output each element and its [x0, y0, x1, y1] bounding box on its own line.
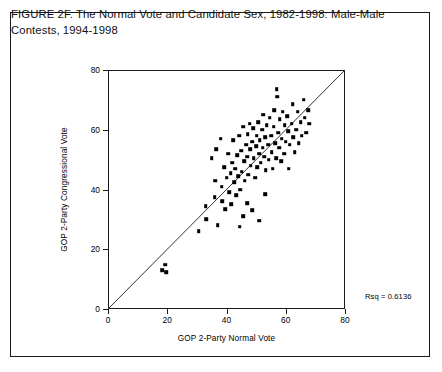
data-point	[235, 153, 239, 157]
data-point	[283, 123, 287, 127]
data-point	[295, 128, 299, 132]
x-tick	[227, 309, 228, 314]
data-point	[297, 141, 301, 145]
data-point	[197, 230, 201, 234]
y-tick	[103, 130, 108, 131]
data-point	[259, 161, 263, 165]
data-point	[263, 135, 267, 139]
data-point	[273, 141, 277, 145]
y-tick-label: 60	[70, 126, 100, 134]
x-tick-label: 60	[271, 316, 301, 324]
data-point	[221, 200, 225, 204]
data-point	[257, 219, 261, 223]
data-point	[274, 156, 278, 160]
data-point	[257, 120, 261, 124]
y-tick-label: 0	[70, 305, 100, 313]
data-point	[237, 134, 241, 138]
data-point	[231, 161, 235, 165]
data-point	[205, 218, 209, 222]
data-point	[284, 140, 288, 144]
data-point	[280, 137, 284, 141]
data-point	[164, 263, 168, 267]
data-point	[296, 110, 300, 114]
data-point	[278, 117, 282, 121]
data-point	[286, 129, 290, 133]
data-point	[215, 147, 219, 151]
y-tick-label: 20	[70, 245, 100, 253]
y-axis-title-text: GOP 2-Party Congressional Vote	[60, 127, 69, 252]
data-point	[241, 215, 245, 219]
data-point	[220, 185, 224, 189]
data-point	[222, 165, 226, 169]
data-point	[255, 165, 259, 169]
data-point	[270, 150, 274, 154]
data-point	[253, 176, 257, 180]
data-point	[276, 95, 280, 99]
data-point	[237, 174, 241, 178]
y-tick	[103, 70, 108, 71]
x-tick	[345, 309, 346, 314]
data-point	[288, 143, 292, 147]
data-point	[254, 144, 258, 148]
data-point	[213, 195, 217, 199]
x-tick	[108, 309, 109, 314]
data-point	[261, 146, 265, 150]
data-point	[293, 150, 297, 154]
data-point	[276, 131, 280, 135]
data-point	[210, 156, 214, 160]
data-point	[292, 135, 296, 139]
y-tick-label: 80	[70, 66, 100, 74]
data-point	[287, 167, 291, 171]
y-tick-label: 40	[70, 185, 100, 193]
data-point	[263, 155, 267, 159]
data-point	[266, 143, 270, 147]
data-point	[279, 159, 283, 163]
data-point	[232, 180, 236, 184]
data-point	[234, 194, 238, 198]
data-point	[257, 152, 261, 156]
data-point	[285, 114, 289, 118]
data-point	[243, 179, 247, 183]
x-tick-label: 40	[212, 316, 242, 324]
data-point	[308, 122, 312, 126]
data-point	[269, 134, 273, 138]
data-point	[299, 120, 303, 124]
data-point	[255, 134, 259, 138]
data-point	[261, 113, 265, 117]
data-point	[251, 126, 255, 130]
data-point	[242, 159, 246, 163]
data-point-layer	[108, 70, 345, 309]
data-point	[244, 143, 248, 147]
x-tick	[167, 309, 168, 314]
data-point	[234, 167, 238, 171]
data-point	[238, 188, 242, 192]
x-tick-label: 80	[330, 316, 360, 324]
data-point	[264, 168, 268, 172]
data-point	[245, 201, 249, 205]
data-point	[231, 138, 235, 142]
data-point	[224, 207, 228, 211]
data-point	[204, 204, 208, 208]
x-tick	[286, 309, 287, 314]
data-point	[282, 152, 286, 156]
data-point	[275, 88, 279, 92]
data-point	[268, 116, 272, 120]
data-point	[265, 123, 269, 127]
data-point	[291, 103, 295, 107]
data-point	[213, 179, 217, 183]
data-point	[229, 203, 233, 207]
data-point	[305, 131, 309, 135]
data-point	[219, 137, 223, 141]
data-point	[247, 173, 251, 177]
data-point	[260, 128, 264, 132]
x-tick-label: 0	[93, 316, 123, 324]
data-point	[271, 167, 275, 171]
data-point	[229, 171, 233, 175]
y-axis-title: GOP 2-Party Congressional Vote	[58, 70, 70, 309]
data-point	[216, 224, 220, 228]
y-tick	[103, 190, 108, 191]
data-point	[246, 132, 250, 136]
data-point	[300, 134, 304, 138]
data-point	[263, 192, 267, 196]
data-point	[228, 191, 232, 195]
